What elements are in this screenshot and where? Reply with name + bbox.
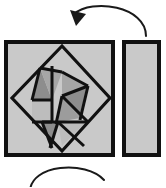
plain-rectangle-group[interactable]	[124, 42, 159, 155]
arrow-bottom-arc	[30, 168, 104, 188]
tangram-figure	[0, 0, 166, 187]
arrow-top-arc	[74, 6, 146, 36]
rotation-arrow-bottom	[30, 168, 104, 188]
rectangle-outline[interactable]	[124, 42, 159, 155]
figure-container	[0, 0, 166, 187]
dissected-square-group[interactable]	[6, 42, 113, 155]
arrowhead-top-icon	[70, 10, 86, 26]
rotation-arrow-top	[70, 6, 146, 36]
tangram-piece	[32, 100, 52, 122]
